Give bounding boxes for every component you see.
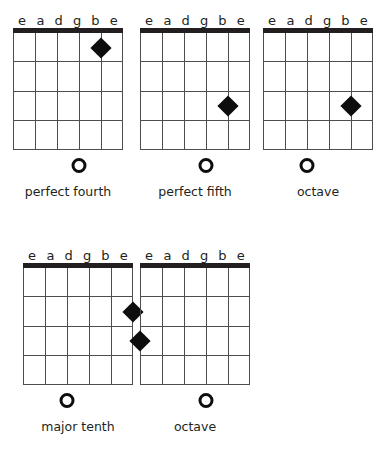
diagram-caption: major tenth (18, 420, 138, 434)
fret-line (140, 355, 250, 356)
fret-line (140, 149, 250, 150)
open-string-circle-icon (199, 158, 214, 173)
string-label: e (23, 249, 41, 262)
finger-marker-diamond-icon (340, 96, 361, 117)
interval-diagram-sheet: eadgbeperfect fourtheadgbeperfect fifthe… (0, 0, 387, 462)
string-line (206, 33, 207, 150)
string-line (228, 268, 229, 385)
string-label: d (177, 249, 195, 262)
fret-line (263, 120, 373, 121)
string-line (89, 268, 90, 385)
string-label-row: eadgbe (23, 245, 133, 263)
string-line (249, 268, 250, 385)
string-line (67, 268, 68, 385)
chord-diagram-perfect-fifth: eadgbeperfect fifth (135, 10, 255, 150)
string-label: e (115, 249, 133, 262)
fret-line (263, 61, 373, 62)
fret-line (140, 384, 250, 385)
fret-line (140, 120, 250, 121)
string-label: e (232, 249, 250, 262)
open-string-circle-icon (199, 393, 214, 408)
string-label: b (213, 14, 231, 27)
string-label: e (140, 249, 158, 262)
string-label: d (60, 249, 78, 262)
string-line (206, 268, 207, 385)
string-label: e (263, 14, 281, 27)
string-line (140, 268, 141, 385)
string-line (307, 33, 308, 150)
string-label: g (195, 14, 213, 27)
string-label: a (41, 249, 59, 262)
string-label: a (158, 249, 176, 262)
fretboard (263, 28, 373, 150)
diagram-caption: perfect fifth (135, 185, 255, 199)
string-label: d (300, 14, 318, 27)
string-line (57, 33, 58, 150)
string-label: d (177, 14, 195, 27)
string-label: e (140, 14, 158, 27)
chord-diagram-major-tenth: eadgbemajor tenth (18, 245, 138, 385)
string-label-row: eadgbe (140, 10, 250, 28)
diagram-caption: perfect fourth (8, 185, 128, 199)
fret-line (13, 120, 123, 121)
fret-grid (13, 33, 123, 150)
fret-line (140, 296, 250, 297)
chord-diagram-octave-lower: eadgbeoctave (135, 245, 255, 385)
string-label-row: eadgbe (140, 245, 250, 263)
string-label: e (232, 14, 250, 27)
string-line (140, 33, 141, 150)
string-line (79, 33, 80, 150)
string-label: e (355, 14, 373, 27)
fret-grid (23, 268, 133, 385)
string-line (122, 33, 123, 150)
chord-diagram-octave-upper: eadgbeoctave (258, 10, 378, 150)
string-label: g (68, 14, 86, 27)
fret-line (13, 61, 123, 62)
diagram-caption: octave (258, 185, 378, 199)
fretboard (13, 28, 123, 150)
string-label: g (195, 249, 213, 262)
string-label: b (213, 249, 231, 262)
string-line (23, 268, 24, 385)
fret-line (23, 355, 133, 356)
string-label: b (86, 14, 104, 27)
string-line (132, 268, 133, 385)
finger-marker-diamond-icon (217, 96, 238, 117)
string-label: a (31, 14, 49, 27)
string-label: e (105, 14, 123, 27)
fret-grid (263, 33, 373, 150)
fret-line (13, 91, 123, 92)
string-label: b (96, 249, 114, 262)
string-line (184, 33, 185, 150)
open-string-circle-icon (300, 158, 315, 173)
string-line (285, 33, 286, 150)
string-label: g (318, 14, 336, 27)
string-line (13, 33, 14, 150)
string-line (111, 268, 112, 385)
fret-line (140, 61, 250, 62)
string-line (329, 33, 330, 150)
string-label: e (13, 14, 31, 27)
string-line (372, 33, 373, 150)
string-line (228, 33, 229, 150)
string-line (35, 33, 36, 150)
string-line (249, 33, 250, 150)
fret-line (263, 91, 373, 92)
string-label: d (50, 14, 68, 27)
fret-line (23, 326, 133, 327)
string-line (162, 33, 163, 150)
string-line (45, 268, 46, 385)
string-line (351, 33, 352, 150)
finger-marker-diamond-icon (90, 37, 111, 58)
open-string-circle-icon (72, 158, 87, 173)
chord-diagram-perfect-fourth: eadgbeperfect fourth (8, 10, 128, 150)
fretboard (140, 28, 250, 150)
string-line (184, 268, 185, 385)
fret-line (23, 384, 133, 385)
string-label: a (281, 14, 299, 27)
open-string-circle-icon (60, 393, 75, 408)
fret-line (140, 91, 250, 92)
string-line (162, 268, 163, 385)
diagram-caption: octave (135, 420, 255, 434)
string-label: b (336, 14, 354, 27)
